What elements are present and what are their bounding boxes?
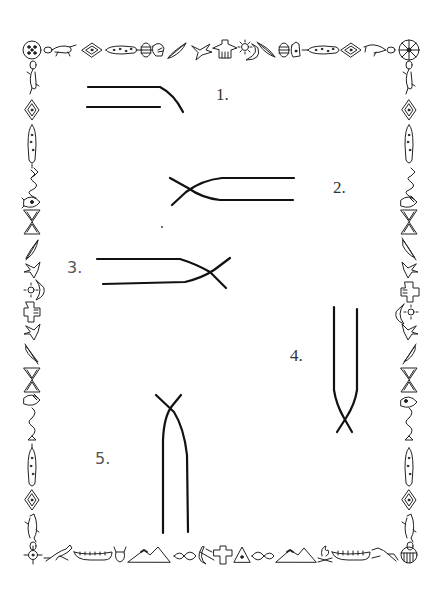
figure-5-drawing — [156, 395, 188, 533]
figure-3-label: 3. — [67, 260, 82, 276]
worksheet-page: 1. 2. 3. 4. 5. — [0, 0, 443, 596]
figure-4-drawing — [334, 307, 357, 432]
figure-5-label: 5. — [95, 451, 110, 467]
figure-2-drawing — [170, 178, 294, 205]
figure-3-drawing — [97, 258, 230, 288]
figure-2-label: 2. — [333, 179, 346, 196]
figure-1-label: 1. — [216, 86, 229, 103]
figure-1-drawing — [87, 87, 183, 112]
figure-4-label: 4. — [290, 347, 303, 364]
stray-dot — [161, 226, 163, 228]
